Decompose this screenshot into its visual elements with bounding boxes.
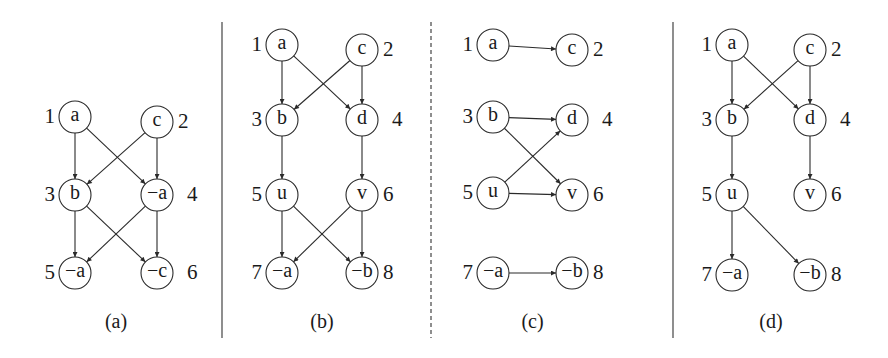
node-label: b bbox=[277, 106, 287, 128]
node-index: 2 bbox=[178, 109, 189, 133]
node-5: u bbox=[477, 177, 509, 209]
node-index: 1 bbox=[463, 32, 474, 56]
node-2: c bbox=[794, 34, 826, 66]
node-index: 1 bbox=[252, 32, 263, 56]
node-label: u bbox=[727, 181, 737, 203]
node-label: a bbox=[728, 31, 737, 53]
panel-caption: (c) bbox=[521, 310, 543, 333]
node-index: 3 bbox=[702, 107, 713, 131]
node-4: d bbox=[346, 104, 378, 136]
node-6: v bbox=[794, 179, 826, 211]
node-4: d bbox=[556, 104, 588, 136]
edge-1-2 bbox=[509, 46, 556, 49]
node-label: b bbox=[727, 106, 737, 128]
node-label: d bbox=[567, 106, 577, 128]
node-2: c bbox=[346, 34, 378, 66]
panel-c: a1c2b3d4u5v6−a7−b8(c) bbox=[463, 29, 614, 333]
node-index: 5 bbox=[252, 182, 263, 206]
node-label: c bbox=[358, 36, 367, 58]
node-index: 4 bbox=[840, 107, 851, 131]
node-label: v bbox=[567, 181, 577, 203]
node-index: 8 bbox=[383, 260, 394, 284]
node-index: 8 bbox=[593, 260, 604, 284]
node-index: 2 bbox=[593, 37, 604, 61]
edge-1-4 bbox=[744, 56, 799, 109]
node-label: u bbox=[488, 179, 498, 201]
node-index: 7 bbox=[463, 260, 474, 284]
node-3: b bbox=[477, 101, 509, 133]
node-8: −b bbox=[346, 257, 378, 289]
node-label: −b bbox=[561, 259, 582, 281]
node-index: 3 bbox=[463, 104, 474, 128]
node-6: v bbox=[346, 179, 378, 211]
node-index: 8 bbox=[831, 262, 842, 286]
node-index: 4 bbox=[602, 107, 613, 131]
node-label: −b bbox=[799, 261, 820, 283]
panel-b: a1c2b3d4u5v6−a7−b8(b) bbox=[252, 29, 404, 333]
edge-2-3 bbox=[744, 61, 798, 110]
node-8: −b bbox=[794, 259, 826, 291]
node-label: −c bbox=[147, 259, 167, 281]
node-label: a bbox=[278, 31, 287, 53]
node-index: 1 bbox=[45, 104, 56, 128]
node-label: c bbox=[153, 108, 162, 130]
node-3: b bbox=[266, 104, 298, 136]
node-5: u bbox=[266, 179, 298, 211]
node-label: d bbox=[805, 106, 815, 128]
node-index: 4 bbox=[187, 182, 198, 206]
node-2: c bbox=[556, 34, 588, 66]
panel-caption: (a) bbox=[105, 310, 127, 333]
node-5: u bbox=[716, 179, 748, 211]
node-label: a bbox=[71, 103, 80, 125]
node-6: −c bbox=[141, 257, 173, 289]
node-label: u bbox=[277, 181, 287, 203]
node-label: −a bbox=[483, 259, 503, 281]
node-1: a bbox=[716, 29, 748, 61]
node-3: b bbox=[59, 179, 91, 211]
edge-5-8 bbox=[743, 206, 799, 263]
node-7: −a bbox=[477, 257, 509, 289]
node-label: d bbox=[357, 106, 367, 128]
panel-a: a1c2b3−a4−a5−c6(a) bbox=[45, 101, 199, 333]
node-5: −a bbox=[59, 257, 91, 289]
node-2: c bbox=[141, 106, 173, 138]
node-index: 6 bbox=[383, 182, 394, 206]
panel-caption: (b) bbox=[310, 310, 333, 333]
node-index: 6 bbox=[187, 260, 198, 284]
edge-2-3 bbox=[294, 61, 350, 110]
panels: a1c2b3−a4−a5−c6(a)a1c2b3d4u5v6−a7−b8(b)a… bbox=[45, 29, 852, 333]
node-index: 5 bbox=[702, 182, 713, 206]
node-8: −b bbox=[556, 257, 588, 289]
node-label: −a bbox=[722, 261, 742, 283]
node-1: a bbox=[266, 29, 298, 61]
node-6: v bbox=[556, 179, 588, 211]
edge-5-6 bbox=[509, 193, 556, 194]
node-7: −a bbox=[266, 257, 298, 289]
node-index: 5 bbox=[463, 180, 474, 204]
node-index: 4 bbox=[392, 107, 403, 131]
node-index: 3 bbox=[45, 182, 56, 206]
node-3: b bbox=[716, 104, 748, 136]
node-4: d bbox=[794, 104, 826, 136]
node-label: b bbox=[70, 181, 80, 203]
graph-figure: a1c2b3−a4−a5−c6(a)a1c2b3d4u5v6−a7−b8(b)a… bbox=[0, 0, 888, 358]
node-label: −a bbox=[147, 181, 167, 203]
node-index: 2 bbox=[383, 37, 394, 61]
node-label: v bbox=[357, 181, 367, 203]
node-label: c bbox=[806, 36, 815, 58]
node-1: a bbox=[477, 29, 509, 61]
node-4: −a bbox=[141, 179, 173, 211]
node-label: b bbox=[488, 103, 498, 125]
node-index: 6 bbox=[593, 182, 604, 206]
node-index: 2 bbox=[831, 37, 842, 61]
panel-caption: (d) bbox=[759, 310, 782, 333]
node-index: 7 bbox=[252, 260, 263, 284]
node-label: −a bbox=[65, 259, 85, 281]
edge-1-4 bbox=[87, 128, 146, 184]
edge-2-3 bbox=[87, 133, 145, 185]
node-1: a bbox=[59, 101, 91, 133]
panel-d: a1c2b3d4u5v6−a7−b8(d) bbox=[702, 29, 852, 333]
node-label: a bbox=[489, 31, 498, 53]
node-index: 3 bbox=[252, 107, 263, 131]
node-label: −b bbox=[351, 259, 372, 281]
